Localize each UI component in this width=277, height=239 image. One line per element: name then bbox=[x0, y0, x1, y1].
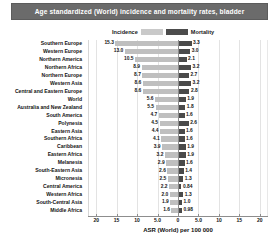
bar-incidence bbox=[155, 97, 178, 102]
bar-mortality bbox=[178, 81, 191, 86]
value-label-incidence: 8.6 bbox=[135, 80, 142, 87]
chart-legend: Incidence Mortality bbox=[112, 27, 214, 36]
value-label-incidence: 4.4 bbox=[152, 128, 159, 135]
bar-incidence bbox=[167, 168, 178, 173]
bar-incidence bbox=[156, 105, 179, 110]
bar-mortality bbox=[178, 152, 186, 157]
value-label-mortality: 3.2 bbox=[193, 64, 200, 71]
legend-swatch-mortality bbox=[166, 29, 188, 35]
bar-incidence bbox=[142, 65, 178, 70]
category-label: Australia and New Zealand bbox=[17, 104, 82, 111]
category-label: Southern Europe bbox=[41, 40, 82, 47]
bar-mortality bbox=[178, 144, 186, 149]
value-label-mortality: 0.98 bbox=[184, 207, 194, 214]
bar-incidence bbox=[170, 200, 178, 205]
value-label-incidence: 4.1 bbox=[153, 136, 160, 143]
value-label-mortality: 1.6 bbox=[186, 128, 193, 135]
category-label: Polynesia bbox=[58, 120, 82, 127]
value-label-mortality: 1.9 bbox=[187, 96, 194, 103]
value-label-incidence: 5.6 bbox=[147, 96, 154, 103]
value-label-incidence: 8.7 bbox=[134, 72, 141, 79]
x-tick-label: 10 bbox=[134, 217, 140, 223]
plot-area: 15.33.313.03.010.52.18.93.28.72.78.63.28… bbox=[88, 40, 268, 215]
category-label: South-Central Asia bbox=[36, 199, 82, 206]
category-label: Western Africa bbox=[46, 191, 82, 198]
value-label-incidence: 8.9 bbox=[133, 64, 140, 71]
bar-incidence bbox=[162, 144, 178, 149]
value-label-incidence: 2.9 bbox=[158, 160, 165, 167]
value-label-incidence: 15.3 bbox=[104, 40, 114, 47]
value-label-mortality: 2.7 bbox=[191, 72, 198, 79]
page-title: Age standardized (World) incidence and m… bbox=[35, 8, 245, 15]
bar-incidence bbox=[166, 160, 178, 165]
x-axis-ticks: 2015105.005.0101520 bbox=[88, 217, 268, 226]
category-label: South America bbox=[46, 112, 82, 119]
x-tick-label: 5.0 bbox=[154, 217, 161, 223]
value-label-mortality: 1.3 bbox=[185, 192, 192, 199]
value-label-mortality: 3.2 bbox=[193, 80, 200, 87]
value-label-mortality: 1.4 bbox=[185, 168, 192, 175]
category-axis-labels: Southern EuropeWestern EuropeNorthern Am… bbox=[0, 40, 85, 215]
category-label: Micronesia bbox=[55, 175, 82, 182]
bar-incidence bbox=[143, 89, 178, 94]
x-tick-label: 0 bbox=[177, 217, 180, 223]
bar-incidence bbox=[125, 49, 178, 54]
x-tick-label: 15 bbox=[114, 217, 120, 223]
value-label-incidence: 2.5 bbox=[159, 176, 166, 183]
value-label-incidence: 13.0 bbox=[114, 48, 124, 55]
value-label-incidence: 3.9 bbox=[154, 144, 161, 151]
value-label-mortality: 0.84 bbox=[183, 184, 193, 191]
bar-incidence bbox=[115, 41, 178, 46]
category-label: Central America bbox=[43, 183, 82, 190]
bar-mortality bbox=[178, 41, 192, 46]
bar-mortality bbox=[178, 89, 189, 94]
value-label-mortality: 1.0 bbox=[184, 199, 191, 206]
x-axis-title: ASR (World) per 100 000 bbox=[88, 227, 268, 233]
category-label: South-Eastern Asia bbox=[35, 167, 82, 174]
value-label-incidence: 2.6 bbox=[159, 168, 166, 175]
category-label: Middle Africa bbox=[50, 207, 82, 214]
category-label: World bbox=[68, 96, 82, 103]
category-label: Eastern Asia bbox=[51, 128, 82, 135]
value-label-mortality: 3.0 bbox=[192, 48, 199, 55]
x-tick-label: 20 bbox=[93, 217, 99, 223]
value-label-mortality: 1.9 bbox=[187, 152, 194, 159]
category-label: Melanesia bbox=[58, 159, 82, 166]
category-label: Western Asia bbox=[50, 80, 82, 87]
category-label: Central and Eastern Europe bbox=[15, 88, 82, 95]
category-label: Western Europe bbox=[43, 48, 82, 55]
bar-mortality bbox=[178, 49, 190, 54]
chart-root: Age standardized (World) incidence and m… bbox=[0, 0, 277, 239]
bar-incidence bbox=[169, 184, 178, 189]
bar-incidence bbox=[159, 113, 178, 118]
bar-mortality bbox=[178, 105, 185, 110]
value-label-mortality: 1.6 bbox=[186, 112, 193, 119]
x-tick-label: 10 bbox=[216, 217, 222, 223]
bar-incidence bbox=[168, 176, 178, 181]
bar-mortality bbox=[178, 73, 189, 78]
value-label-incidence: 3.2 bbox=[157, 152, 164, 159]
category-label: Eastern Africa bbox=[48, 151, 82, 158]
axis-zero-line bbox=[178, 40, 179, 215]
bar-incidence bbox=[160, 121, 178, 126]
x-tick-label: 15 bbox=[237, 217, 243, 223]
bar-incidence bbox=[170, 192, 178, 197]
value-label-mortality: 1.8 bbox=[187, 104, 194, 111]
value-label-incidence: 5.5 bbox=[147, 104, 154, 111]
x-tick-label: 20 bbox=[257, 217, 263, 223]
value-label-incidence: 4.5 bbox=[151, 120, 158, 127]
category-label: Northern Africa bbox=[45, 64, 82, 71]
value-label-mortality: 1.3 bbox=[185, 176, 192, 183]
category-label: Southern Africa bbox=[44, 135, 82, 142]
value-label-mortality: 2.6 bbox=[190, 120, 197, 127]
value-label-incidence: 1.6 bbox=[163, 207, 170, 214]
chart-title-banner: Age standardized (World) incidence and m… bbox=[11, 3, 268, 20]
x-tick-label: 5.0 bbox=[195, 217, 202, 223]
value-label-mortality: 1.9 bbox=[187, 144, 194, 151]
legend-swatch-incidence bbox=[141, 29, 163, 35]
category-label: Northern America bbox=[39, 56, 82, 63]
value-label-incidence: 1.9 bbox=[162, 199, 169, 206]
legend-label-mortality: Mortality bbox=[191, 29, 214, 35]
value-label-mortality: 1.6 bbox=[186, 136, 193, 143]
bar-mortality bbox=[178, 121, 189, 126]
